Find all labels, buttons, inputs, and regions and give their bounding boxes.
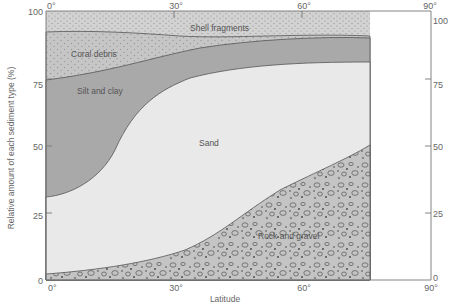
sediment-chart: 0° 30° 60° 90° 0° 30° 60° 90° 100 75 50 … [0, 0, 450, 305]
top-tick-60: 60° [297, 1, 311, 11]
right-tick-100: 100 [433, 16, 448, 26]
right-tick-25: 25 [433, 209, 443, 219]
x-axis-title: Latitude [210, 294, 241, 304]
bottom-tick-labels: 0° 30° 60° 90° [48, 283, 438, 293]
label-coral-debris: Coral debris [71, 49, 117, 59]
y-axis-title: Relative amount of each sediment type (%… [6, 67, 16, 230]
left-tick-75: 75 [33, 80, 43, 90]
left-tick-100: 100 [28, 7, 43, 17]
bottom-tick-0: 0° [48, 283, 57, 293]
top-tick-90: 90° [423, 1, 437, 11]
label-rock-and-gravel: Rock and gravel [258, 231, 320, 241]
right-tick-75: 75 [433, 80, 443, 90]
top-tick-30: 30° [169, 1, 183, 11]
label-shell-fragments: Shell fragments [190, 23, 249, 33]
left-tick-50: 50 [33, 142, 43, 152]
right-tick-50: 50 [433, 142, 443, 152]
left-tick-0: 0 [38, 276, 43, 286]
right-tick-0: 0 [433, 273, 438, 283]
label-silt-and-clay: Silt and clay [77, 86, 124, 96]
bottom-tick-60: 60° [297, 283, 311, 293]
bottom-tick-90: 90° [424, 283, 438, 293]
left-tick-25: 25 [33, 211, 43, 221]
top-tick-0: 0° [47, 1, 56, 11]
right-tick-labels: 100 75 50 25 0 [433, 16, 448, 283]
left-tick-labels: 100 75 50 25 0 [28, 7, 43, 286]
top-tick-labels: 0° 30° 60° 90° [47, 1, 437, 11]
bottom-tick-30: 30° [169, 283, 183, 293]
label-sand: Sand [199, 138, 219, 148]
